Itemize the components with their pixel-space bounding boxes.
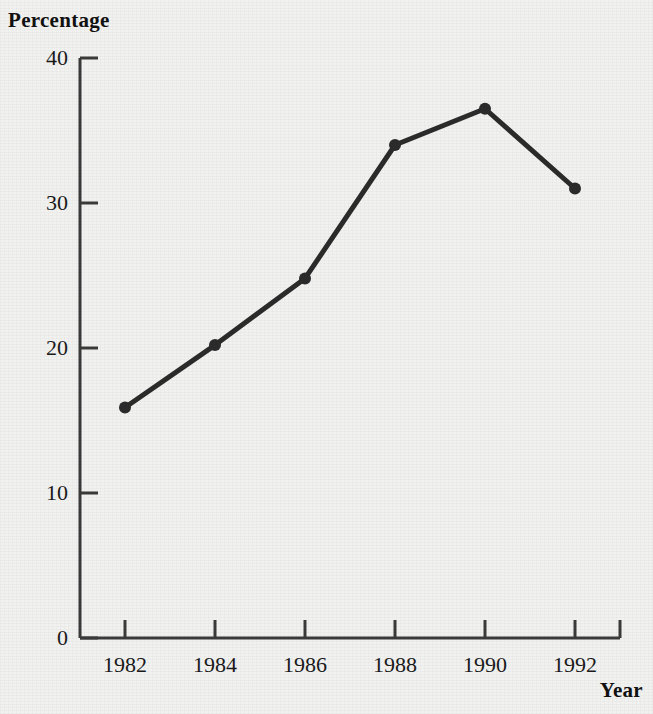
x-tick-label: 1988: [373, 652, 417, 678]
series-markers: [119, 103, 581, 414]
x-tick-label: 1984: [193, 652, 237, 678]
series-line-percentage: [125, 109, 575, 408]
plot-area: [0, 0, 653, 714]
x-tick-label: 1986: [283, 652, 327, 678]
y-tick-label: 30: [0, 190, 68, 216]
data-point-marker: [209, 339, 221, 351]
data-point-marker: [119, 401, 131, 413]
y-axis-ticks: [80, 58, 98, 638]
axes: [80, 58, 620, 638]
x-axis-ticks: [125, 620, 575, 638]
x-tick-label: 1982: [103, 652, 147, 678]
line-chart: Percentage Year 010203040 19821984198619…: [0, 0, 653, 714]
y-tick-label: 20: [0, 335, 68, 361]
y-tick-label: 40: [0, 45, 68, 71]
data-point-marker: [389, 139, 401, 151]
x-tick-label: 1992: [553, 652, 597, 678]
y-tick-label: 10: [0, 480, 68, 506]
data-point-marker: [479, 103, 491, 115]
x-tick-label: 1990: [463, 652, 507, 678]
y-tick-label: 0: [0, 625, 68, 651]
data-point-marker: [299, 272, 311, 284]
data-point-marker: [569, 183, 581, 195]
